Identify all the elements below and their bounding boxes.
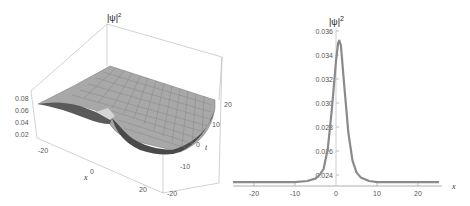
svg-text:0.026: 0.026 bbox=[315, 148, 333, 155]
svg-text:0.08: 0.08 bbox=[15, 95, 29, 102]
line-y-label: |ψ|2 bbox=[329, 15, 344, 27]
x-axis-tick-labels: -20 -10 0 10 20 bbox=[249, 190, 422, 197]
surface-t-label: t bbox=[205, 143, 208, 152]
svg-text:20: 20 bbox=[414, 190, 422, 197]
svg-text:0.034: 0.034 bbox=[315, 52, 333, 59]
svg-text:0: 0 bbox=[334, 190, 338, 197]
svg-text:20: 20 bbox=[139, 186, 147, 193]
svg-text:-10: -10 bbox=[180, 163, 190, 170]
svg-text:10: 10 bbox=[373, 190, 381, 197]
z-axis-ticks: 0.08 0.06 0.04 0.02 bbox=[15, 95, 29, 138]
y-axis-tick-labels: 0.024 0.026 0.028 0.030 0.032 0.034 0.03… bbox=[315, 28, 333, 179]
svg-text:-20: -20 bbox=[249, 190, 259, 197]
svg-text:-10: -10 bbox=[290, 190, 300, 197]
line-plot-panel: 0.024 0.026 0.028 0.030 0.032 0.034 0.03… bbox=[230, 0, 470, 206]
line-plot: 0.024 0.026 0.028 0.030 0.032 0.034 0.03… bbox=[230, 0, 470, 206]
svg-text:0.036: 0.036 bbox=[315, 28, 333, 35]
svg-text:0.030: 0.030 bbox=[315, 100, 333, 107]
svg-text:-20: -20 bbox=[167, 190, 177, 197]
svg-text:0: 0 bbox=[196, 141, 200, 148]
svg-text:0.032: 0.032 bbox=[315, 76, 333, 83]
svg-text:0.02: 0.02 bbox=[15, 131, 29, 138]
surface-z-label: |ψ|2 bbox=[107, 12, 122, 23]
svg-text:0.04: 0.04 bbox=[15, 119, 29, 126]
svg-text:-20: -20 bbox=[38, 147, 48, 154]
svg-text:10: 10 bbox=[212, 121, 220, 128]
surface-plot: |ψ|2 0.08 0.06 0.04 0.02 -20 0 20 x 20 1… bbox=[0, 0, 240, 206]
svg-text:0: 0 bbox=[90, 168, 94, 175]
x-axis-ticks: -20 0 20 bbox=[38, 147, 147, 193]
svg-text:0.06: 0.06 bbox=[15, 107, 29, 114]
surface-x-label: x bbox=[83, 173, 88, 182]
surface-plot-panel: |ψ|2 0.08 0.06 0.04 0.02 -20 0 20 x 20 1… bbox=[0, 0, 240, 206]
line-x-label: x bbox=[451, 182, 456, 191]
surface-mesh bbox=[38, 66, 215, 155]
